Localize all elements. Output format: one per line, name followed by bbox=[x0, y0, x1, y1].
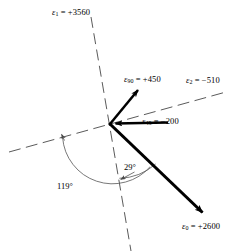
principal-axis-2-line bbox=[9, 92, 226, 152]
label-angle-29: 29° bbox=[124, 163, 136, 172]
label-epsilon-45-equals: = bbox=[154, 116, 159, 126]
label-epsilon-0-subscript: 0 bbox=[185, 225, 188, 231]
label-epsilon-1-value: +3560 bbox=[68, 7, 90, 17]
label-epsilon-90-value: +450 bbox=[143, 74, 161, 84]
label-epsilon-0: ε0 = +2600 bbox=[182, 222, 220, 231]
label-epsilon-45-subscript: 45 bbox=[145, 120, 151, 126]
label-epsilon-45: ε45 = −200 bbox=[142, 117, 179, 126]
label-epsilon-2-subscript: 2 bbox=[189, 79, 192, 85]
principal-axis-1-line bbox=[91, 17, 131, 251]
label-angle-119: 119° bbox=[57, 182, 73, 191]
label-epsilon-45-value: −200 bbox=[161, 116, 179, 126]
label-epsilon-2: ε2 = −510 bbox=[186, 76, 220, 85]
label-epsilon-1-subscript: 1 bbox=[55, 11, 58, 17]
label-epsilon-2-equals: = bbox=[195, 75, 200, 85]
label-epsilon-0-value: +2600 bbox=[198, 221, 220, 231]
angle-29-arc-pointer bbox=[121, 172, 135, 179]
gauge-90-vector bbox=[110, 90, 138, 124]
origin-point bbox=[108, 122, 111, 125]
label-epsilon-2-value: −510 bbox=[202, 75, 220, 85]
angle-119-arc bbox=[63, 137, 151, 183]
diagram-canvas bbox=[0, 0, 246, 252]
strain-diagram-figure: ε1 = +3560 ε90 = +450 ε2 = −510 ε45 = −2… bbox=[0, 0, 246, 252]
label-epsilon-1: ε1 = +3560 bbox=[52, 8, 90, 17]
label-epsilon-0-equals: = bbox=[191, 221, 196, 231]
label-epsilon-90-equals: = bbox=[136, 74, 141, 84]
label-epsilon-90-subscript: 90 bbox=[127, 78, 133, 84]
label-epsilon-90: ε90 = +450 bbox=[124, 75, 161, 84]
label-epsilon-1-equals: = bbox=[61, 7, 66, 17]
